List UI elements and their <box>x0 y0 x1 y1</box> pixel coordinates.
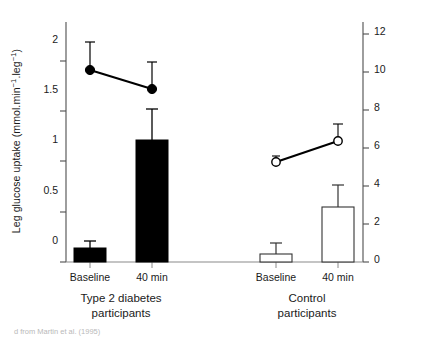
bar-ctrl-baseline <box>260 254 292 262</box>
group-label-ctrl-line1: Control <box>232 292 382 304</box>
bar-ctrl-40min <box>322 207 354 262</box>
x-label-ctrl-baseline: Baseline <box>241 271 311 283</box>
chart-figure: Leg glucose uptake (mmol.min−1.leg−1) Ar… <box>0 0 429 337</box>
bar-t2d-baseline <box>74 248 106 262</box>
marker-ctrl-arterial-40min <box>334 137 342 145</box>
errorbar-ctrl-40min <box>332 185 344 207</box>
bar-t2d-40min <box>136 140 168 262</box>
marker-t2d-arterial-baseline <box>85 65 94 74</box>
plot-area <box>0 0 429 337</box>
errorbar-t2d-baseline <box>84 241 96 248</box>
group-label-t2d-line1: Type 2 diabetes <box>46 292 196 304</box>
x-label-ctrl-40min: 40 min <box>306 271 370 283</box>
line-ctrl-arterial-glucose <box>276 141 338 162</box>
group-label-t2d-line2: participants <box>46 307 196 319</box>
x-label-t2d-baseline: Baseline <box>55 271 125 283</box>
marker-ctrl-arterial-baseline <box>272 158 280 166</box>
x-label-t2d-40min: 40 min <box>120 271 184 283</box>
marker-t2d-arterial-40min <box>147 84 156 93</box>
errorbar-t2d-40min <box>146 109 158 140</box>
line-t2d-arterial-glucose <box>90 70 152 89</box>
errorbar-ctrl-baseline <box>270 243 282 254</box>
source-caption: d from Martin et al. (1995) <box>14 327 100 336</box>
group-label-ctrl-line2: participants <box>232 307 382 319</box>
